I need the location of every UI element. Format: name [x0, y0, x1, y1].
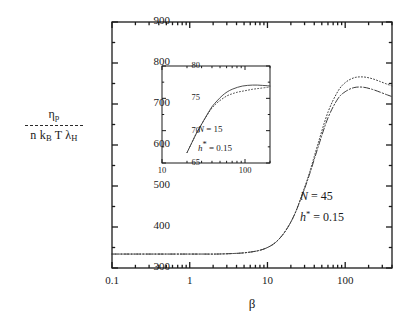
inset-ytick-label: 65 — [134, 157, 200, 167]
inset-xtick-label: 100 — [215, 165, 275, 175]
main-xtick-label: 10 — [237, 274, 297, 286]
annotation-h-value: = 0.15 — [310, 210, 344, 224]
fraction-bar — [25, 125, 83, 126]
main-ytick-label: 900 — [104, 14, 170, 26]
n-k-text: n k — [30, 128, 46, 142]
main-ytick-label: 500 — [104, 178, 170, 190]
y-axis-label-numerator: ηp — [2, 108, 106, 122]
x-axis-label: β — [112, 296, 392, 312]
annotation-h-inset: h* = 0.15 — [198, 139, 232, 153]
eta-subscript-p: p — [55, 112, 59, 122]
inset-ytick-label: 70 — [134, 125, 200, 135]
main-xtick-label: 1 — [160, 274, 220, 286]
annotation-N-symbol: N — [300, 189, 308, 203]
y-axis-label: ηp n kB T λH — [2, 108, 106, 144]
main-ytick-label: 300 — [104, 260, 170, 272]
lambda-subscript-H: H — [71, 134, 77, 144]
y-axis-label-denominator: n kB T λH — [2, 129, 106, 143]
main-xtick-label: 100 — [315, 274, 375, 286]
inset-ytick-label: 75 — [134, 92, 200, 102]
main-xtick-label: 0.1 — [82, 274, 142, 286]
inset-annotation-N-value: = 15 — [204, 124, 223, 134]
inset-ytick-label: 80 — [134, 60, 200, 70]
annotation-N-inset: N = 15 — [198, 124, 223, 134]
main-ytick-label: 400 — [104, 219, 170, 231]
main-ytick-label: 600 — [104, 137, 170, 149]
T-lambda-text: T λ — [52, 128, 72, 142]
annotation-N-value: = 45 — [308, 189, 333, 203]
annotation-h-main: h* = 0.15 — [300, 209, 344, 225]
inset-annotation-h-value: = 0.15 — [207, 143, 232, 153]
annotation-N-main: N = 45 — [300, 189, 333, 204]
